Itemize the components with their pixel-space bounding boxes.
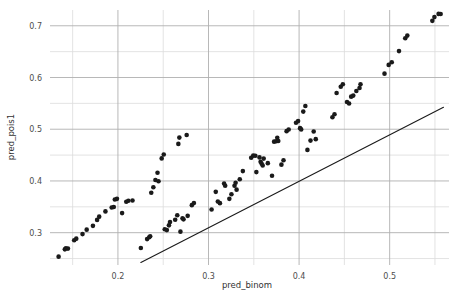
data-point: [151, 185, 156, 190]
data-point: [155, 170, 160, 175]
data-point: [159, 156, 164, 161]
data-point: [253, 154, 258, 159]
data-point: [405, 33, 410, 38]
data-point: [176, 142, 181, 147]
y-tick-label: 0.5: [29, 125, 42, 134]
data-point: [156, 179, 161, 184]
data-point: [56, 254, 61, 259]
data-point: [168, 220, 173, 225]
data-point: [126, 198, 131, 203]
figure-background: [0, 0, 453, 297]
data-point: [296, 119, 301, 124]
data-point: [241, 169, 246, 174]
data-point: [382, 71, 387, 76]
data-point: [91, 224, 96, 229]
data-point: [308, 138, 313, 143]
data-point: [209, 207, 214, 212]
data-point: [301, 109, 306, 114]
x-tick-label: 0.2: [112, 272, 125, 281]
y-tick-label: 0.3: [29, 229, 42, 238]
data-point: [165, 228, 170, 233]
data-point: [261, 156, 266, 161]
data-point: [279, 162, 284, 167]
data-point: [341, 82, 346, 87]
data-point: [130, 198, 135, 203]
data-point: [358, 82, 363, 87]
data-point: [74, 236, 79, 241]
data-point: [257, 155, 262, 160]
data-point: [286, 127, 291, 132]
data-point: [389, 60, 394, 65]
data-point: [233, 180, 238, 185]
data-point: [111, 205, 116, 210]
data-point: [184, 133, 189, 138]
data-point: [234, 187, 239, 192]
data-point: [254, 170, 259, 175]
data-point: [223, 184, 228, 189]
data-point: [229, 192, 234, 197]
scatter-plot-figure: 0.20.30.40.5 0.30.40.50.60.7 pred_binom …: [0, 0, 453, 297]
y-tick-label: 0.4: [29, 177, 42, 186]
data-point: [97, 214, 102, 219]
data-point: [347, 101, 352, 106]
data-point: [80, 232, 85, 237]
y-tick-label: 0.7: [29, 22, 42, 31]
data-point: [84, 227, 89, 232]
data-point: [332, 112, 337, 117]
data-point: [351, 93, 356, 98]
data-point: [432, 15, 437, 20]
data-point: [281, 158, 286, 163]
data-point: [161, 152, 166, 157]
data-point: [185, 214, 190, 219]
y-axis-title: pred_pois1: [6, 114, 16, 160]
data-point: [173, 217, 178, 222]
data-point: [192, 201, 197, 206]
data-point: [299, 127, 304, 132]
x-tick-label: 0.5: [383, 272, 396, 281]
data-point: [181, 217, 186, 222]
data-point: [270, 173, 275, 178]
data-point: [103, 209, 108, 214]
data-point: [115, 197, 120, 202]
data-point: [120, 211, 125, 216]
x-tick-label: 0.3: [202, 272, 215, 281]
data-point: [66, 246, 71, 251]
data-point: [260, 163, 265, 168]
data-point: [218, 201, 223, 206]
data-point: [438, 12, 443, 17]
data-point: [213, 190, 218, 195]
data-point: [175, 213, 180, 218]
data-point: [178, 229, 183, 234]
y-tick-label: 0.6: [29, 74, 42, 83]
data-point: [305, 148, 310, 153]
data-point: [276, 139, 281, 144]
data-point: [313, 137, 318, 142]
plot-canvas: 0.20.30.40.5 0.30.40.50.60.7 pred_binom …: [0, 0, 453, 297]
data-point: [334, 91, 339, 96]
data-point: [227, 197, 232, 202]
data-point: [177, 135, 182, 140]
data-point: [149, 190, 154, 195]
data-point: [266, 161, 271, 166]
data-point: [303, 104, 308, 109]
x-axis-title: pred_binom: [222, 280, 272, 290]
data-point: [139, 246, 144, 251]
data-point: [237, 177, 242, 182]
data-point: [148, 234, 153, 239]
data-point: [311, 129, 316, 134]
x-tick-label: 0.4: [293, 272, 306, 281]
data-point: [397, 49, 402, 54]
